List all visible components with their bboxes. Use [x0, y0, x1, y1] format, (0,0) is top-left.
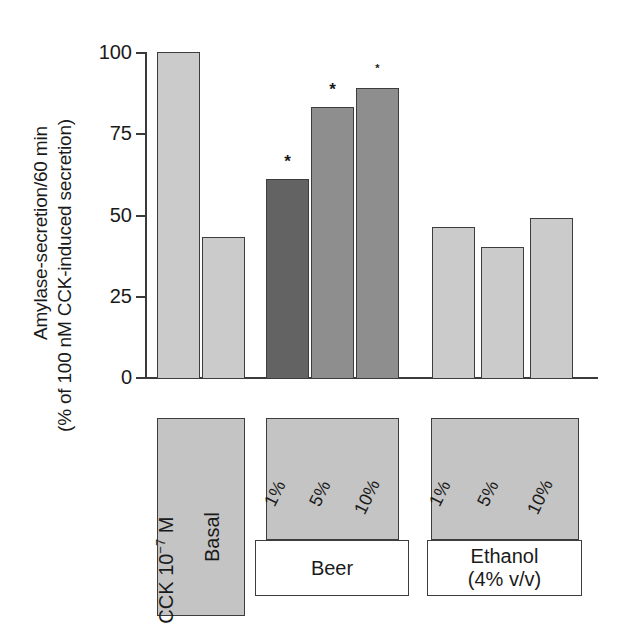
- bar-label-ethanol-10: 10%: [523, 476, 558, 518]
- y-ticklabel-25-wrap: 25: [88, 285, 132, 307]
- bar-label-cck-exponent: −7: [153, 539, 168, 554]
- group-subtitle-ethanol-text: (4% v/v): [468, 568, 541, 591]
- group-title-ethanol-text: Ethanol: [471, 545, 539, 568]
- bar-ethanol-5: [481, 247, 524, 379]
- group-title-ethanol: Ethanol (4% v/v): [427, 540, 582, 596]
- y-ticklabel-100-wrap: 100: [88, 41, 132, 63]
- bar-beer-5: [311, 107, 354, 379]
- group-box-beer: 1% 5% 10%: [266, 418, 399, 540]
- bar-ethanol-1: [432, 227, 475, 379]
- y-ticklabel-100: 100: [92, 41, 132, 64]
- y-ticklabel-75-wrap: 75: [88, 122, 132, 144]
- y-ticklabel-0: 0: [92, 366, 132, 389]
- bar-label-cck: CCK 10−7 M: [153, 517, 178, 624]
- y-tick-100: [136, 52, 146, 54]
- group-box-ethanol: 1% 5% 10%: [431, 418, 579, 540]
- y-ticklabel-25: 25: [92, 285, 132, 308]
- group-title-beer: Beer: [255, 540, 409, 596]
- y-tick-50: [136, 215, 146, 217]
- bar-cck: [157, 52, 200, 379]
- bar-basal: [202, 237, 245, 379]
- page-top-artifact: [150, 0, 610, 6]
- bar-label-beer-1: 1%: [260, 477, 290, 510]
- group-box-control: CCK 10−7 M Basal: [157, 418, 245, 616]
- bar-label-ethanol-5: 5%: [473, 477, 503, 510]
- y-axis-title: Amylase-secretion/60 min (% of 100 nM CC…: [0, 0, 96, 420]
- bar-label-cck-text: CCK 10: [155, 554, 177, 624]
- bar-label-beer-10: 10%: [350, 476, 385, 518]
- y-axis-title-line-1: Amylase-secretion/60 min: [30, 0, 52, 340]
- bar-label-basal: Basal: [201, 512, 224, 562]
- bar-label-ethanol-1: 1%: [425, 477, 455, 510]
- y-axis-title-line-2: (% of 100 nM CCK-induced secretion): [54, 52, 76, 432]
- group-title-beer-text: Beer: [311, 557, 353, 580]
- bar-label-cck-unit: M: [155, 517, 177, 539]
- y-tick-75: [136, 133, 146, 135]
- y-ticklabel-75: 75: [92, 122, 132, 145]
- significance-beer-5: *: [311, 81, 354, 98]
- significance-beer-1: *: [266, 153, 309, 170]
- y-tick-25: [136, 296, 146, 298]
- y-ticklabel-0-wrap: 0: [88, 366, 132, 388]
- bar-ethanol-10: [530, 218, 573, 379]
- y-ticklabel-50-wrap: 50: [88, 204, 132, 226]
- y-tick-0: [136, 377, 146, 379]
- bar-beer-1: [266, 179, 309, 379]
- bar-label-beer-5: 5%: [305, 477, 335, 510]
- y-ticklabel-50: 50: [92, 204, 132, 227]
- significance-beer-10: *: [356, 63, 399, 74]
- figure-container: Amylase-secretion/60 min (% of 100 nM CC…: [0, 0, 625, 636]
- bar-beer-10: [356, 88, 399, 379]
